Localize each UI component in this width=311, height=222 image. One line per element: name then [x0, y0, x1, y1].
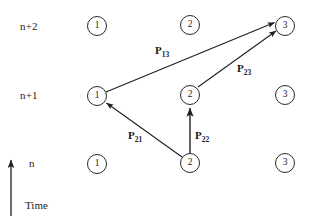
edge-label-p23: P23 [237, 62, 251, 74]
node-label: 2 [188, 20, 193, 30]
node-n-plus-1-state-1[interactable]: 1 [87, 86, 107, 106]
edge-label-subscript: 23 [244, 68, 252, 77]
node-label: 3 [283, 21, 288, 31]
row-label-n: n [29, 157, 35, 169]
trellis-diagram: n+2 n+1 n 1 2 3 1 2 3 [0, 0, 311, 222]
node-label: 1 [95, 21, 100, 31]
node-n-state-1[interactable]: 1 [87, 154, 107, 174]
time-axis-label: Time [25, 199, 48, 211]
node-n-plus-2-state-1[interactable]: 1 [87, 16, 107, 36]
row-label-n-plus-1: n+1 [20, 89, 38, 101]
edge-lines-layer [0, 0, 311, 222]
edge-label-base: P [195, 129, 202, 141]
node-label: 1 [95, 91, 100, 101]
edge-line-p21 [107, 103, 183, 157]
edge-label-subscript: 21 [135, 135, 143, 144]
edge-line-p23 [198, 31, 276, 87]
node-n-plus-1-state-2[interactable]: 2 [180, 85, 200, 105]
edge-label-p21: P21 [128, 129, 142, 141]
edge-label-subscript: 13 [162, 50, 170, 59]
edge-label-p22: P22 [195, 129, 209, 141]
edge-label-base: P [155, 44, 162, 56]
node-n-plus-2-state-2[interactable]: 2 [180, 15, 200, 35]
edge-label-base: P [237, 62, 244, 74]
node-label: 3 [283, 158, 288, 168]
node-label: 2 [188, 158, 193, 168]
edge-label-subscript: 22 [202, 135, 210, 144]
node-label: 1 [95, 159, 100, 169]
edge-label-base: P [128, 129, 135, 141]
row-label-n-plus-2: n+2 [20, 20, 38, 32]
node-n-state-2[interactable]: 2 [180, 153, 200, 173]
node-label: 3 [283, 90, 288, 100]
node-n-plus-2-state-3[interactable]: 3 [275, 16, 295, 36]
node-n-state-3[interactable]: 3 [275, 153, 295, 173]
node-n-plus-1-state-3[interactable]: 3 [275, 85, 295, 105]
edge-label-p13: P13 [155, 44, 169, 56]
node-label: 2 [188, 90, 193, 100]
